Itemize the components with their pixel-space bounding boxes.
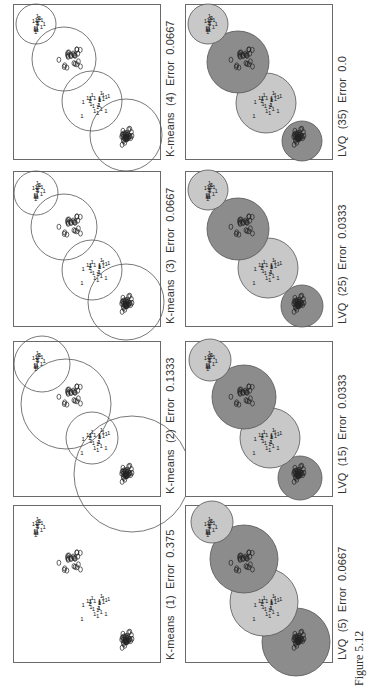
- scatter-plot: 1111111111111111111111111111111111111111…: [14, 342, 160, 496]
- caption-kmeans-3: K-means (3) Error 0.0667: [164, 187, 176, 324]
- caption-lvq-15: LVQ (15) Error 0.0333: [336, 374, 348, 494]
- panel-lvq-35: 1111111111111111111111111111111111111111…: [185, 4, 333, 160]
- scatter-plot: 1111111111111111111111111111111111111111…: [186, 506, 332, 662]
- svg-text:1: 1: [104, 445, 108, 451]
- caption-kmeans-2: K-means (2) Error 0.1333: [164, 357, 176, 494]
- caption-kmeans-1: K-means (1) Error 0.375: [164, 530, 176, 660]
- scatter-plot: 1111111111111111111111111111111111111111…: [186, 172, 332, 326]
- panel-kmeans-1: 1111111111111111111111111111111111111111…: [13, 505, 161, 663]
- figure-canvas: 1111111111111111111111111111111111111111…: [0, 0, 369, 690]
- scatter-plot: 1111111111111111111111111111111111111111…: [14, 5, 160, 159]
- caption-lvq-5: LVQ (5) Error 0.0667: [336, 547, 348, 660]
- svg-text:1: 1: [104, 611, 108, 617]
- scatter-plot: 1111111111111111111111111111111111111111…: [14, 172, 160, 326]
- svg-text:1: 1: [80, 616, 84, 622]
- svg-text:1: 1: [82, 266, 86, 272]
- panel-lvq-25: 1111111111111111111111111111111111111111…: [185, 171, 333, 327]
- panel-lvq-15: 1111111111111111111111111111111111111111…: [185, 341, 333, 497]
- svg-text:1: 1: [104, 275, 108, 281]
- svg-text:1: 1: [80, 280, 84, 286]
- svg-text:1: 1: [42, 21, 46, 27]
- scatter-plot: 1111111111111111111111111111111111111111…: [186, 342, 332, 496]
- caption-lvq-25: LVQ (25) Error 0.0333: [336, 204, 348, 324]
- svg-text:1: 1: [80, 113, 84, 119]
- figure-label: Figure 5.12: [352, 631, 367, 686]
- svg-text:1: 1: [82, 602, 86, 608]
- caption-lvq-35: LVQ (35) Error 0.0: [336, 56, 348, 157]
- panel-kmeans-2: 1111111111111111111111111111111111111111…: [13, 341, 161, 497]
- panel-kmeans-4: 1111111111111111111111111111111111111111…: [13, 4, 161, 160]
- panel-lvq-5: 1111111111111111111111111111111111111111…: [185, 505, 333, 663]
- scatter-plot: 1111111111111111111111111111111111111111…: [186, 5, 332, 159]
- svg-text:1: 1: [80, 450, 84, 456]
- svg-text:1: 1: [82, 436, 86, 442]
- svg-text:1: 1: [42, 524, 46, 530]
- svg-text:1: 1: [42, 358, 46, 364]
- scatter-plot: 1111111111111111111111111111111111111111…: [14, 506, 160, 662]
- panel-kmeans-3: 1111111111111111111111111111111111111111…: [13, 171, 161, 327]
- svg-text:1: 1: [104, 108, 108, 114]
- svg-text:1: 1: [42, 188, 46, 194]
- svg-text:1: 1: [82, 99, 86, 105]
- caption-kmeans-4: K-means (4) Error 0.0667: [164, 20, 176, 157]
